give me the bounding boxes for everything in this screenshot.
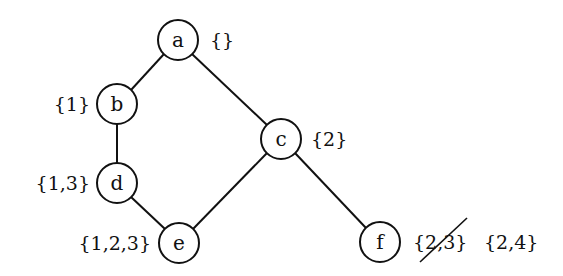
node-e: e {1,2,3} [78, 223, 199, 263]
edge-d-e [131, 197, 165, 229]
tree-diagram: a {} b {1} c {2} d {1,3} e {1,2,3} f {2,… [0, 0, 563, 276]
node-d-set: {1,3} [36, 172, 90, 194]
node-a-set: {} [210, 29, 234, 51]
node-d-label: d [111, 171, 124, 195]
edge-a-b [131, 54, 164, 90]
node-c-set: {2} [311, 128, 347, 150]
node-c-label: c [275, 127, 286, 151]
node-a: a {} [158, 20, 234, 60]
node-a-label: a [172, 28, 184, 52]
node-b-set: {1} [54, 93, 90, 115]
node-d: d {1,3} [36, 163, 137, 203]
node-b: b {1} [54, 84, 137, 124]
node-c: c {2} [261, 119, 347, 159]
node-e-label: e [173, 231, 185, 255]
node-b-label: b [111, 92, 124, 116]
node-f-set: {2,4} [484, 231, 538, 253]
edge-c-f [295, 153, 366, 228]
node-e-set: {1,2,3} [78, 232, 151, 254]
edge-c-e [193, 153, 267, 229]
node-f: f {2,3} {2,4} [360, 218, 538, 262]
edge-a-c [192, 54, 267, 125]
